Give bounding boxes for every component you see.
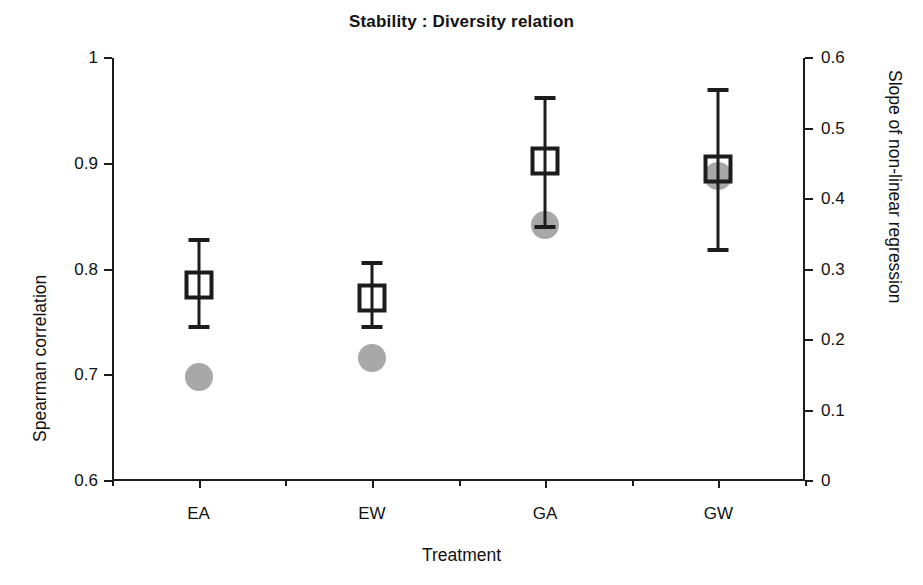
correlation-point-marker [704, 155, 733, 184]
y-axis-left-line [112, 58, 114, 481]
x-axis-tick [285, 481, 287, 486]
error-bar-cap-upper [361, 261, 382, 265]
y-axis-left-ticklabel: 1 [89, 48, 98, 68]
y-axis-right-ticklabel: 0 [821, 471, 830, 491]
y-axis-right-ticklabel: 0.3 [821, 260, 845, 280]
x-axis-tick [459, 481, 461, 486]
chart-figure: Stability : Diversity relation Spearman … [0, 0, 923, 585]
y-axis-left-ticklabel: 0.6 [74, 471, 98, 491]
y-axis-right-ticklabel: 0.5 [821, 119, 845, 139]
error-bar-cap-upper [708, 88, 729, 92]
chart-title: Stability : Diversity relation [0, 12, 923, 32]
x-axis-tick [718, 481, 720, 488]
y-axis-left-tick [104, 374, 112, 376]
y-axis-left-tick [104, 57, 112, 59]
x-axis-ticklabel-ea: EA [187, 504, 210, 524]
x-axis-tick [805, 481, 807, 486]
x-axis-tick [112, 481, 114, 486]
y-axis-left-ticklabel: 0.7 [74, 365, 98, 385]
y-axis-left-tick [104, 480, 112, 482]
y-axis-right-ticklabel: 0.6 [821, 48, 845, 68]
x-axis-tick [372, 481, 374, 488]
y-axis-right-label: Slope of non-linear regression [884, 70, 905, 303]
y-axis-left-ticklabel: 0.8 [74, 260, 98, 280]
y-axis-left-label: Spearman correlation [30, 275, 51, 442]
y-axis-right-tick [805, 269, 813, 271]
y-axis-right-tick [805, 410, 813, 412]
y-axis-right-ticklabel: 0.1 [821, 401, 845, 421]
y-axis-left-tick [104, 163, 112, 165]
plot-area: 0.60.70.80.91 00.10.20.30.40.50.6 EAEWGA… [112, 58, 805, 481]
y-axis-right-tick [805, 57, 813, 59]
x-axis-ticklabel-gw: GW [704, 504, 733, 524]
x-axis-tick [632, 481, 634, 486]
x-axis-tick [199, 481, 201, 488]
y-axis-right-tick [805, 128, 813, 130]
y-axis-right-ticklabel: 0.4 [821, 189, 845, 209]
error-bar-cap-lower [535, 225, 556, 229]
slope-point-marker [185, 363, 213, 391]
error-bar-cap-upper [188, 238, 209, 242]
x-axis-ticklabel-ga: GA [533, 504, 558, 524]
x-axis-tick [545, 481, 547, 488]
x-axis-label: Treatment [0, 545, 923, 566]
correlation-point-marker [357, 284, 386, 313]
error-bar-cap-lower [708, 248, 729, 252]
correlation-point-marker [184, 271, 213, 300]
x-axis-ticklabel-ew: EW [358, 504, 385, 524]
y-axis-right-tick [805, 198, 813, 200]
slope-point-marker [358, 344, 386, 372]
y-axis-left-tick [104, 269, 112, 271]
correlation-point-marker [531, 146, 560, 175]
error-bar-cap-lower [188, 325, 209, 329]
y-axis-left-ticklabel: 0.9 [74, 154, 98, 174]
error-bar-cap-upper [535, 96, 556, 100]
y-axis-right-ticklabel: 0.2 [821, 330, 845, 350]
error-bar-cap-lower [361, 325, 382, 329]
y-axis-right-tick [805, 339, 813, 341]
